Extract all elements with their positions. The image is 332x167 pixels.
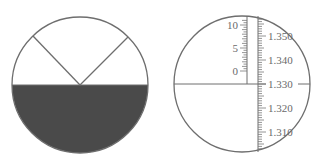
v-line-right [80,37,128,85]
figure: 1050 1.3501.3401.3301.3201.310 [0,0,332,167]
right-scale-label: 1.310 [268,126,293,138]
right-field-of-view: 1050 1.3501.3401.3301.3201.310 [174,16,310,152]
left-field-of-view [12,17,148,153]
right-scale-labels: 1.3501.3401.3301.3201.310 [266,30,298,138]
left-scale-ticks [240,20,247,71]
left-scale-label: 10 [227,19,239,31]
right-scale-label: 1.340 [268,54,293,66]
right-scale-ticks [258,19,266,149]
left-scale-label: 0 [233,65,239,77]
v-line-left [33,36,80,85]
left-scale-labels: 1050 [227,19,239,77]
right-scale-label: 1.330 [268,78,293,90]
left-scale-label: 5 [233,42,239,54]
right-scale-label: 1.350 [268,30,293,42]
right-scale-label: 1.320 [268,102,293,114]
dark-lower-half [12,85,148,153]
